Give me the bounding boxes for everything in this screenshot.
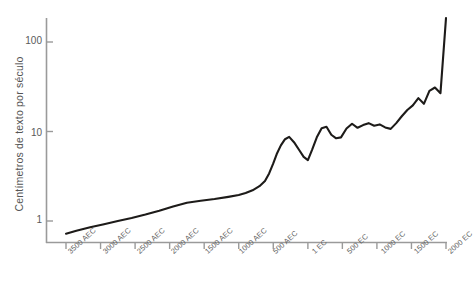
axes	[46, 18, 447, 243]
y-tick-label-10: 10	[16, 127, 42, 138]
y-tick-label-100: 100	[16, 35, 42, 46]
y-tick-label-1: 1	[16, 214, 42, 225]
data-series-line	[66, 18, 446, 234]
